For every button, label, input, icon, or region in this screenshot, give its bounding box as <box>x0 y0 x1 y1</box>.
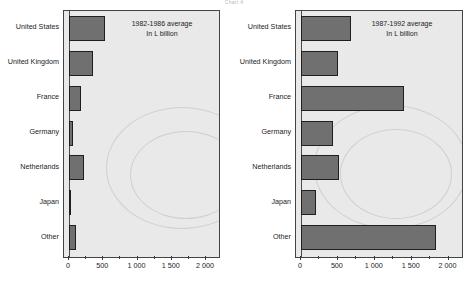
bar-united-states <box>69 16 105 41</box>
bar-other <box>301 225 436 250</box>
bar-japan <box>69 190 71 215</box>
plot-area-left: 1982-1986 average In L billion <box>63 10 220 258</box>
category-axis-right: United StatesUnited KingdomFranceGermany… <box>236 10 294 258</box>
panel-note-title-right: 1987-1992 average <box>348 19 456 29</box>
x-tick <box>171 256 172 260</box>
watermark-arc <box>340 129 452 219</box>
x-tick <box>205 256 206 260</box>
x-tick <box>448 256 449 260</box>
plot-area-right: 1987-1992 average In L billion <box>295 10 463 258</box>
bar-japan <box>301 190 316 215</box>
x-minor-tick <box>188 256 189 259</box>
bar-germany <box>301 121 333 146</box>
category-label-japan: Japan <box>39 198 59 206</box>
x-tick-label: 500 <box>96 261 108 270</box>
panel-note-subtitle-right: In L billion <box>348 29 456 39</box>
category-label-france: France <box>37 93 59 101</box>
x-axis-right: 05001 0001 5002 000 <box>295 256 461 276</box>
x-axis-left: 05001 0001 5002 000 <box>63 256 218 276</box>
x-tick-label: 1 000 <box>365 261 383 270</box>
category-label-other: Other <box>273 233 291 241</box>
bar-france <box>69 86 81 111</box>
category-label-japan: Japan <box>271 198 291 206</box>
x-tick-label: 1 500 <box>402 261 420 270</box>
panel-note-title-left: 1982-1986 average <box>112 19 212 29</box>
category-label-france: France <box>269 93 291 101</box>
panel-note-right: 1987-1992 average In L billion <box>348 19 456 38</box>
x-tick <box>337 256 338 260</box>
x-tick-label: 500 <box>331 261 343 270</box>
category-label-united-kingdom: United Kingdom <box>8 58 59 66</box>
x-tick-label: 1 000 <box>128 261 146 270</box>
bar-united-kingdom <box>301 51 338 76</box>
x-tick <box>102 256 103 260</box>
bar-germany <box>69 121 73 146</box>
watermark-arc <box>130 131 220 219</box>
x-tick-label: 1 500 <box>162 261 180 270</box>
x-minor-tick <box>429 256 430 259</box>
bar-united-states <box>301 16 351 41</box>
figure-root: Chart 4 United StatesUnited KingdomFranc… <box>0 0 468 287</box>
chart-panel-left: United StatesUnited KingdomFranceGermany… <box>6 10 220 258</box>
bar-france <box>301 86 404 111</box>
x-minor-tick <box>318 256 319 259</box>
x-tick <box>137 256 138 260</box>
category-label-germany: Germany <box>29 128 59 136</box>
panel-note-subtitle-left: In L billion <box>112 29 212 39</box>
x-minor-tick <box>154 256 155 259</box>
category-axis-left: United StatesUnited KingdomFranceGermany… <box>6 10 62 258</box>
category-label-netherlands: Netherlands <box>20 163 59 171</box>
category-label-united-states: United States <box>16 23 59 31</box>
x-tick <box>300 256 301 260</box>
category-label-germany: Germany <box>261 128 291 136</box>
bar-netherlands <box>69 155 84 180</box>
x-tick <box>411 256 412 260</box>
bar-other <box>69 225 76 250</box>
category-label-united-kingdom: United Kingdom <box>240 58 291 66</box>
x-minor-tick <box>392 256 393 259</box>
category-label-netherlands: Netherlands <box>252 163 291 171</box>
bar-united-kingdom <box>69 51 93 76</box>
bar-netherlands <box>301 155 339 180</box>
x-minor-tick <box>119 256 120 259</box>
x-tick-label: 0 <box>66 261 70 270</box>
panel-note-left: 1982-1986 average In L billion <box>112 19 212 38</box>
x-tick-label: 0 <box>298 261 302 270</box>
figure-title: Chart 4 <box>0 0 468 6</box>
x-tick <box>374 256 375 260</box>
category-label-united-states: United States <box>248 23 291 31</box>
x-tick-label: 2 000 <box>196 261 214 270</box>
x-minor-tick <box>85 256 86 259</box>
watermark-arc <box>106 107 220 229</box>
category-label-other: Other <box>41 233 59 241</box>
x-tick-label: 2 000 <box>439 261 457 270</box>
x-tick <box>68 256 69 260</box>
chart-panel-right: United StatesUnited KingdomFranceGermany… <box>236 10 462 258</box>
x-minor-tick <box>355 256 356 259</box>
